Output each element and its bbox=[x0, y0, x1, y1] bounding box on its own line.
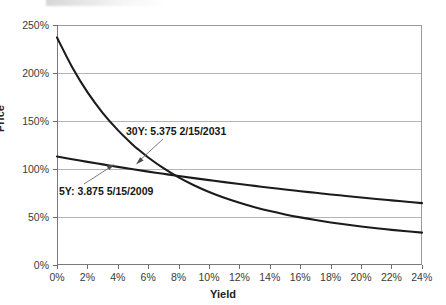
curve-30y bbox=[57, 37, 422, 232]
curves-overlay bbox=[0, 0, 446, 305]
curve-5y bbox=[57, 157, 422, 204]
price-yield-chart: 250% 200% 150% 100% 50% 0% 0% 2% 4% 6% 8… bbox=[0, 0, 446, 305]
leader-line-5y bbox=[84, 166, 112, 184]
